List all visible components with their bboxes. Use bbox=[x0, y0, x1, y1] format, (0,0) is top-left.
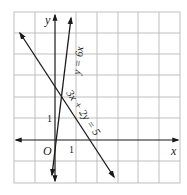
x-axis-label: x bbox=[170, 144, 177, 158]
coordinate-plane: y x O 1 1 y = 6x 3x + 2y = 5 bbox=[0, 0, 187, 195]
line1-label: y = 6x bbox=[70, 46, 85, 77]
y-tick-label-1: 1 bbox=[47, 113, 52, 124]
x-tick-label-1: 1 bbox=[69, 144, 74, 155]
y-axis-label: y bbox=[44, 13, 51, 27]
origin-label: O bbox=[43, 144, 52, 158]
grid bbox=[14, 12, 180, 183]
